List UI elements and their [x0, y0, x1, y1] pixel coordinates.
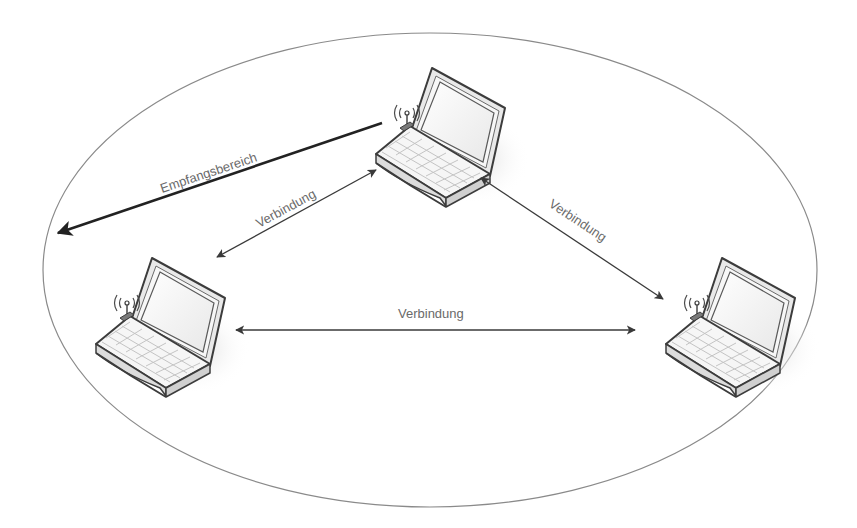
reception-range-label: Empfangsbereich: [158, 150, 259, 196]
wireless-network-diagram: Empfangsbereich Verbindung Verbindung Ve…: [0, 0, 857, 528]
laptop-node-right[interactable]: [666, 258, 820, 397]
laptop-wifi-icon: [96, 258, 250, 397]
laptop-node-top[interactable]: [376, 68, 530, 207]
laptop-node-left[interactable]: [96, 258, 250, 397]
laptop-wifi-icon: [666, 258, 820, 397]
laptop-wifi-icon: [376, 68, 530, 207]
connection-arrow-top-left: [217, 170, 376, 257]
connection-arrow-top-right: [481, 178, 663, 299]
connection-label-top-left: Verbindung: [253, 186, 318, 231]
connection-label-top-right: Verbindung: [546, 196, 609, 245]
connection-label-left-right: Verbindung: [398, 306, 464, 321]
